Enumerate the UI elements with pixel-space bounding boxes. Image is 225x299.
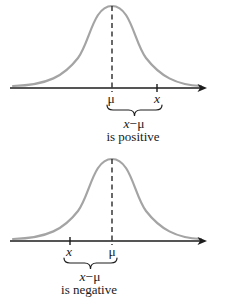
diagram-x-minus-mu-positive: μ x x−μ is positive xyxy=(0,0,225,152)
diagram-x-minus-mu-negative: x μ x−μ is negative xyxy=(0,152,225,299)
normal-curve-figure: μ x x−μ is positive x μ x−μ is negative xyxy=(0,0,225,299)
underbrace xyxy=(107,105,162,116)
x-value-label: x xyxy=(65,244,72,259)
bell-curve xyxy=(13,6,201,86)
mu-label: μ xyxy=(107,91,114,106)
x-value-label: x xyxy=(153,91,160,106)
underbrace xyxy=(64,258,117,269)
sign-caption: is negative xyxy=(61,282,117,297)
mu-label: μ xyxy=(108,244,115,259)
sign-caption: is positive xyxy=(106,129,159,144)
bell-curve xyxy=(13,159,201,239)
